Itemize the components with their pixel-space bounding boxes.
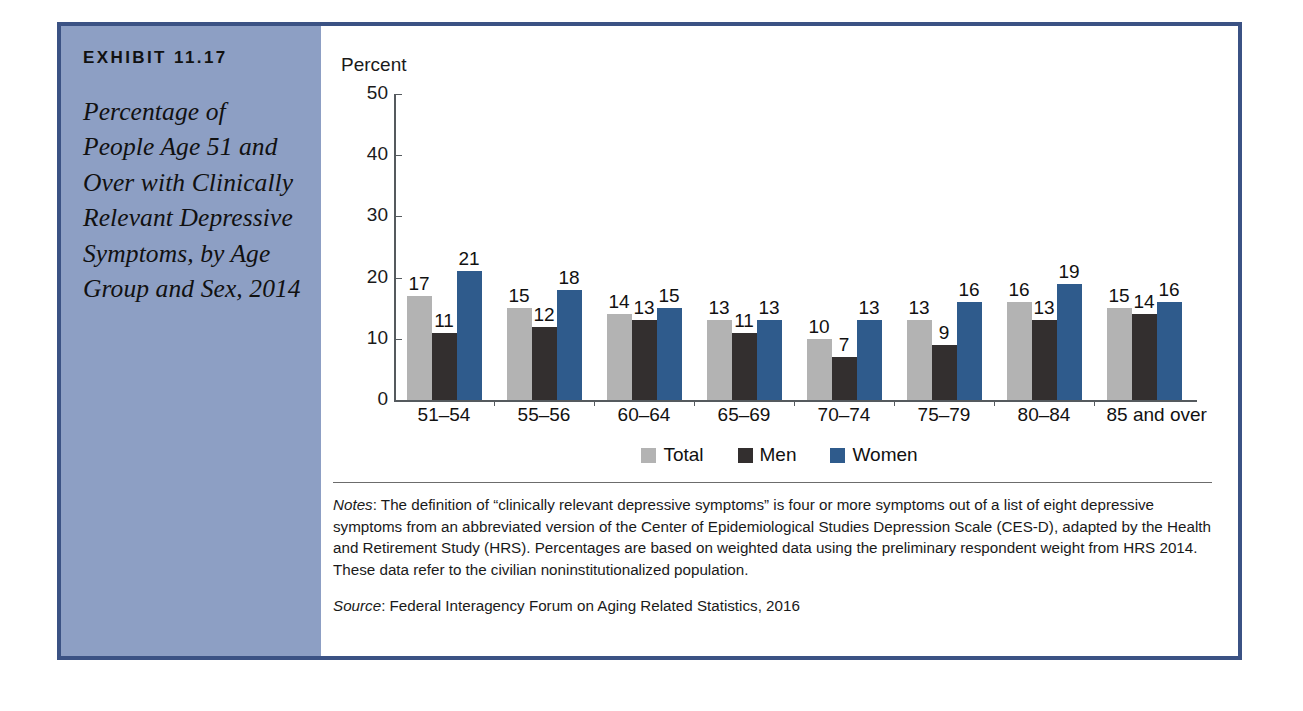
legend-item-women: Women xyxy=(830,444,917,466)
bar-men: 13 xyxy=(632,320,657,400)
bar-women: 13 xyxy=(757,320,782,400)
bar-value-label: 18 xyxy=(558,268,579,287)
source-label: Source xyxy=(333,597,381,614)
bar-group: 14131560–64 xyxy=(607,94,682,400)
notes-text: Notes: The definition of “clinically rel… xyxy=(333,494,1212,580)
bar-women: 19 xyxy=(1057,284,1082,400)
notes-body: The definition of “clinically relevant d… xyxy=(333,496,1211,578)
x-axis-tick-mark xyxy=(594,400,595,406)
bar-men: 11 xyxy=(432,333,457,400)
bar-women: 18 xyxy=(557,290,582,400)
x-axis-group-label: 85 and over xyxy=(1107,404,1182,426)
bar-women: 13 xyxy=(857,320,882,400)
legend-swatch-icon xyxy=(641,448,656,463)
bar-value-label: 10 xyxy=(808,317,829,336)
x-axis-group-label: 80–84 xyxy=(1007,404,1082,426)
bar-men: 14 xyxy=(1132,314,1157,400)
x-axis-group-label: 51–54 xyxy=(407,404,482,426)
exhibit-frame: EXHIBIT 11.17 Percentage of People Age 5… xyxy=(57,22,1242,660)
y-axis-tick-label: 40 xyxy=(367,143,388,165)
exhibit-content-panel: Percent 01020304050 17112151–5415121855–… xyxy=(321,26,1238,656)
x-axis-tick-mark xyxy=(894,400,895,406)
x-axis-group-label: 60–64 xyxy=(607,404,682,426)
x-axis-tick-mark xyxy=(794,400,795,406)
bar-value-label: 12 xyxy=(533,305,554,324)
bar-value-label: 11 xyxy=(734,311,754,330)
bar-total: 16 xyxy=(1007,302,1032,400)
bar-total: 13 xyxy=(707,320,732,400)
y-axis-tick: 0 xyxy=(394,400,402,401)
x-axis-tick-mark xyxy=(494,400,495,406)
bar-value-label: 13 xyxy=(708,298,729,317)
y-axis-tick-label: 30 xyxy=(367,204,388,226)
bar-group: 1071370–74 xyxy=(807,94,882,400)
y-axis-tick-label: 0 xyxy=(377,388,388,410)
bar-group-bars: 171121 xyxy=(407,94,482,400)
bar-women: 16 xyxy=(957,302,982,400)
bar-group-bars: 141315 xyxy=(607,94,682,400)
x-axis-line xyxy=(394,400,1197,402)
bar-value-label: 17 xyxy=(408,274,429,293)
x-axis-group-label: 65–69 xyxy=(707,404,782,426)
bar-group-bars: 131113 xyxy=(707,94,782,400)
bar-group-bars: 151218 xyxy=(507,94,582,400)
legend-label: Men xyxy=(760,444,797,466)
plot-area: 17112151–5415121855–5614131560–641311136… xyxy=(394,94,1194,400)
y-axis-title: Percent xyxy=(341,54,406,76)
bar-value-label: 16 xyxy=(958,280,979,299)
bar-group: 16131980–84 xyxy=(1007,94,1082,400)
bar-value-label: 21 xyxy=(458,249,479,268)
exhibit-title: Percentage of People Age 51 and Over wit… xyxy=(83,94,301,307)
notes-label-sep: : xyxy=(373,496,381,513)
notes-divider xyxy=(333,482,1212,483)
bar-value-label: 16 xyxy=(1008,280,1029,299)
bar-total: 14 xyxy=(607,314,632,400)
y-axis-tick-label: 50 xyxy=(367,82,388,104)
x-axis-tick-mark xyxy=(694,400,695,406)
x-axis-group-label: 75–79 xyxy=(907,404,982,426)
bar-group: 15121855–56 xyxy=(507,94,582,400)
bar-group: 1391675–79 xyxy=(907,94,982,400)
bar-men: 12 xyxy=(532,327,557,400)
bar-value-label: 13 xyxy=(633,298,654,317)
source-body: Federal Interagency Forum on Aging Relat… xyxy=(390,597,800,614)
bar-group-bars: 151416 xyxy=(1107,94,1182,400)
y-axis-tick-label: 10 xyxy=(367,327,388,349)
notes-label: Notes xyxy=(333,496,373,513)
bar-group-bars: 13916 xyxy=(907,94,982,400)
legend-swatch-icon xyxy=(830,448,845,463)
exhibit-caption-panel: EXHIBIT 11.17 Percentage of People Age 5… xyxy=(61,26,321,656)
x-axis-group-label: 55–56 xyxy=(507,404,582,426)
bar-value-label: 13 xyxy=(908,298,929,317)
bar-value-label: 15 xyxy=(508,286,529,305)
bar-value-label: 13 xyxy=(758,298,779,317)
bar-women: 21 xyxy=(457,271,482,400)
legend-label: Total xyxy=(663,444,703,466)
legend-item-total: Total xyxy=(641,444,703,466)
bar-value-label: 13 xyxy=(858,298,879,317)
y-axis-tick-mark xyxy=(394,400,402,401)
bar-women: 16 xyxy=(1157,302,1182,400)
x-axis-tick-mark xyxy=(994,400,995,406)
bar-total: 10 xyxy=(807,339,832,400)
bar-value-label: 16 xyxy=(1158,280,1179,299)
chart-legend: TotalMenWomen xyxy=(321,444,1238,466)
bar-value-label: 14 xyxy=(1133,292,1154,311)
bar-value-label: 7 xyxy=(839,335,850,354)
bar-group: 15141685 and over xyxy=(1107,94,1182,400)
legend-swatch-icon xyxy=(738,448,753,463)
bar-men: 7 xyxy=(832,357,857,400)
bar-value-label: 15 xyxy=(658,286,679,305)
bar-total: 13 xyxy=(907,320,932,400)
bar-total: 15 xyxy=(507,308,532,400)
bar-value-label: 19 xyxy=(1058,262,1079,281)
source-text: Source: Federal Interagency Forum on Agi… xyxy=(333,595,1212,617)
bar-value-label: 11 xyxy=(434,311,454,330)
x-axis-group-label: 70–74 xyxy=(807,404,882,426)
bar-value-label: 9 xyxy=(939,323,950,342)
bar-women: 15 xyxy=(657,308,682,400)
legend-item-men: Men xyxy=(738,444,797,466)
source-label-sep: : xyxy=(381,597,389,614)
bar-group: 13111365–69 xyxy=(707,94,782,400)
bar-total: 15 xyxy=(1107,308,1132,400)
